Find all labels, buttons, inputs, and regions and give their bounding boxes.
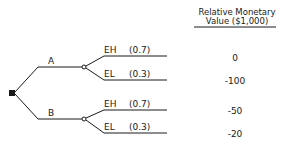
outcome-b-eh-label: EH xyxy=(104,99,116,109)
chance-node-a-icon xyxy=(82,65,86,69)
alternative-a-label: A xyxy=(48,56,54,66)
outcome-a-el-prob: (0.3) xyxy=(129,69,150,79)
outcome-a-el-label: EL xyxy=(104,69,115,79)
chance-node-b-icon xyxy=(82,117,86,121)
outcome-b-el-prob: (0.3) xyxy=(129,122,150,132)
value-b-el: -20 xyxy=(215,129,255,139)
outcome-b-el-label: EL xyxy=(104,122,115,132)
alternative-b-label: B xyxy=(48,108,54,118)
outcome-a-eh-prob: (0.7) xyxy=(129,45,150,55)
value-a-eh: 0 xyxy=(215,53,255,63)
header-line2: Value ($1,000) xyxy=(192,17,282,26)
value-b-eh: -50 xyxy=(215,106,255,116)
value-a-el: -100 xyxy=(215,76,255,86)
decision-node-icon xyxy=(9,90,15,96)
outcome-a-eh-label: EH xyxy=(104,45,116,55)
outcome-b-eh-prob: (0.7) xyxy=(129,99,150,109)
